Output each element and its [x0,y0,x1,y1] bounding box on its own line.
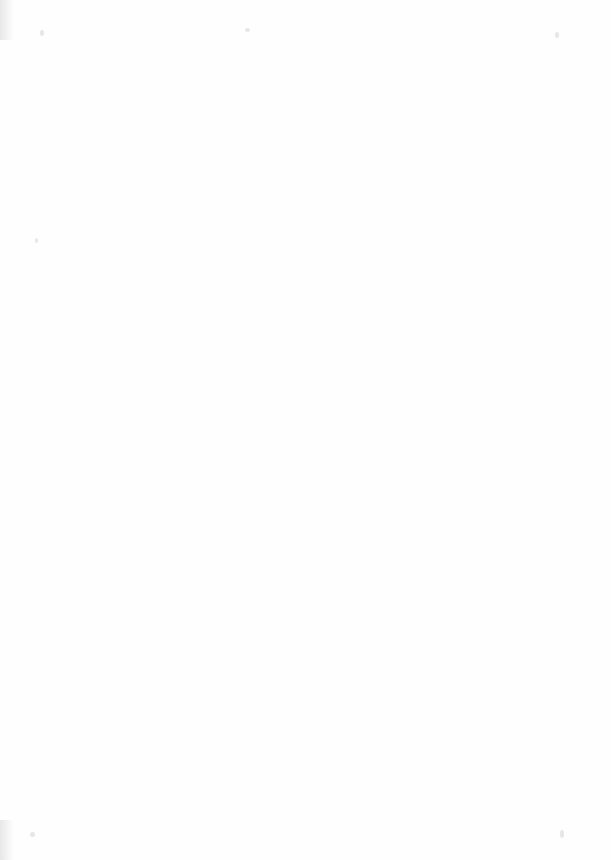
bleed-through-speck [30,832,35,837]
bleed-through-speck [245,28,250,32]
bleed-through-speck [560,830,564,838]
scan-edge-shadow [0,820,14,860]
bleed-through-speck [35,238,38,243]
scan-edge-shadow [0,0,14,40]
bleed-through-speck [40,30,44,36]
bleed-through-speck [555,32,559,38]
blank-page [0,0,611,860]
